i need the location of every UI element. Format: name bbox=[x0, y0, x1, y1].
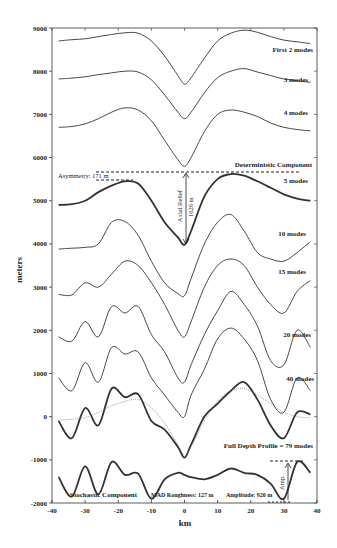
bathymetry-profile-chart: -2000-1000010002000300040005000600070008… bbox=[0, 0, 337, 548]
x-tick-label: -20 bbox=[114, 507, 124, 515]
y-tick-label: 4000 bbox=[33, 240, 48, 248]
profile-line bbox=[59, 259, 311, 337]
x-tick-label: 20 bbox=[247, 507, 255, 515]
label-stochastic-component: Stochastic Component bbox=[70, 491, 138, 499]
amp-label: Amp. bbox=[278, 475, 285, 490]
y-tick-label: -1000 bbox=[31, 456, 48, 464]
label-3-modes: 3 modes bbox=[284, 76, 309, 84]
profile-line bbox=[59, 108, 311, 166]
axial-relief-value: 1626 m bbox=[187, 197, 194, 217]
y-tick-label: 1000 bbox=[33, 370, 48, 378]
y-tick-label: 9000 bbox=[33, 25, 48, 33]
x-tick-label: -10 bbox=[147, 507, 157, 515]
label-5-modes: 5 modes bbox=[284, 177, 309, 185]
y-tick-label: 0 bbox=[44, 413, 48, 421]
profile-lines bbox=[59, 30, 311, 499]
x-tick-label: -40 bbox=[47, 507, 57, 515]
label-10-modes: 10 modes bbox=[278, 230, 306, 238]
axes bbox=[52, 28, 317, 503]
profile-line bbox=[59, 328, 311, 418]
label-deterministic-component: Deterministic Component bbox=[235, 161, 313, 169]
y-axis-title: meters bbox=[14, 257, 24, 283]
y-tick-label: 5000 bbox=[33, 197, 48, 205]
x-tick-label: 0 bbox=[183, 507, 187, 515]
label-full-depth-profile: Full Depth Profile = 79 modes bbox=[224, 442, 313, 450]
x-axis-title: km bbox=[179, 518, 192, 528]
asymmetry-label: Asymmetry: 171 m bbox=[58, 172, 109, 179]
x-tick-label: -30 bbox=[80, 507, 90, 515]
profile-line bbox=[59, 214, 311, 297]
asymmetry-annotation: Asymmetry: 171 m bbox=[58, 172, 300, 180]
x-tick-label: 10 bbox=[214, 507, 222, 515]
axial-relief-annotation: Axial Relief 1626 m bbox=[176, 173, 194, 244]
label-20-modes: 20 modes bbox=[283, 331, 311, 339]
x-tick-label: 40 bbox=[314, 507, 322, 515]
y-tick-label: 6000 bbox=[33, 154, 48, 162]
label-amplitude: Amplitude: 920 m bbox=[226, 492, 272, 498]
y-tick-label: 3000 bbox=[33, 284, 48, 292]
label-mad-roughness: MAD Roughness: 127 m bbox=[151, 492, 214, 498]
y-tick-label: 2000 bbox=[33, 327, 48, 335]
label-40-modes: 40 modes bbox=[286, 375, 314, 383]
profile-line bbox=[59, 174, 311, 245]
y-tick-label: 8000 bbox=[33, 68, 48, 76]
y-tick-label: 7000 bbox=[33, 111, 48, 119]
label-4-modes: 4 modes bbox=[284, 109, 309, 117]
label-15-modes: 15 modes bbox=[278, 268, 306, 276]
label-first-2-modes: First 2 modes bbox=[273, 46, 314, 54]
axial-relief-label: Axial Relief bbox=[176, 189, 183, 222]
profile-line bbox=[59, 69, 311, 119]
y-tick-label: -2000 bbox=[31, 500, 48, 508]
x-tick-label: 30 bbox=[280, 507, 288, 515]
